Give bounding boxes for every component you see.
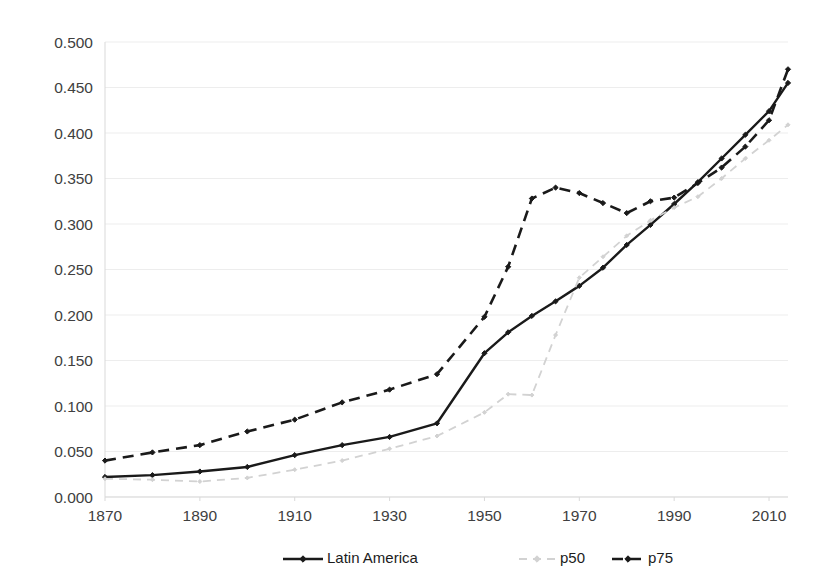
line-chart: 0.0000.0500.1000.1500.2000.2500.3000.350…: [0, 0, 817, 575]
data-point-marker: [530, 393, 534, 397]
legend-marker: [534, 556, 540, 562]
axis-lines: [105, 42, 788, 501]
legend-marker: [625, 556, 631, 562]
data-point-marker: [577, 276, 581, 280]
y-tick-label: 0.200: [54, 307, 93, 324]
legend-marker: [300, 556, 306, 562]
data-point-marker: [197, 469, 202, 474]
y-tick-label: 0.250: [54, 261, 93, 278]
x-tick-label: 1930: [372, 507, 407, 524]
data-point-marker: [292, 453, 297, 458]
y-tick-label: 0.500: [54, 34, 93, 51]
legend-label-p50: p50: [560, 549, 585, 566]
data-point-marker: [245, 476, 249, 480]
x-tick-label: 1950: [467, 507, 502, 524]
data-point-marker: [292, 417, 297, 422]
legend-label-latin-america: Latin America: [327, 549, 419, 566]
data-point-marker: [245, 429, 250, 434]
data-point-marker: [340, 459, 344, 463]
data-point-marker: [150, 478, 154, 482]
x-tick-label: 2010: [752, 507, 787, 524]
y-tick-label: 0.450: [54, 79, 93, 96]
data-point-marker: [340, 443, 345, 448]
y-tick-label: 0.050: [54, 443, 93, 460]
chart-container: 0.0000.0500.1000.1500.2000.2500.3000.350…: [0, 0, 817, 575]
data-point-marker: [553, 185, 558, 190]
data-point-marker: [293, 468, 297, 472]
data-point-marker: [388, 447, 392, 451]
data-point-marker: [198, 480, 202, 484]
data-point-marker: [245, 464, 250, 469]
x-tick-label: 1870: [88, 507, 123, 524]
series-line-p75: [105, 69, 788, 460]
y-axis-tick-labels: 0.0000.0500.1000.1500.2000.2500.3000.350…: [54, 34, 93, 506]
data-point-marker: [482, 410, 486, 414]
x-axis-tick-labels: 18701890191019301950197019902010: [88, 507, 787, 524]
x-tick-label: 1910: [277, 507, 312, 524]
data-point-marker: [150, 473, 155, 478]
data-point-marker: [506, 392, 510, 396]
legend-label-p75: p75: [648, 549, 673, 566]
chart-legend: Latin Americap50p75: [283, 549, 673, 566]
data-point-marker: [150, 450, 155, 455]
x-tick-label: 1990: [657, 507, 692, 524]
series-line-latin-america: [105, 83, 788, 477]
data-series-group: [102, 67, 790, 484]
data-point-marker: [102, 458, 107, 463]
gridlines: [105, 42, 788, 497]
y-tick-label: 0.150: [54, 352, 93, 369]
x-tick-label: 1890: [183, 507, 218, 524]
x-tick-label: 1970: [562, 507, 597, 524]
y-tick-label: 0.350: [54, 170, 93, 187]
y-tick-label: 0.100: [54, 398, 93, 415]
data-point-marker: [387, 434, 392, 439]
y-tick-label: 0.000: [54, 489, 93, 506]
y-tick-label: 0.300: [54, 216, 93, 233]
data-point-marker: [672, 195, 677, 200]
y-tick-label: 0.400: [54, 125, 93, 142]
